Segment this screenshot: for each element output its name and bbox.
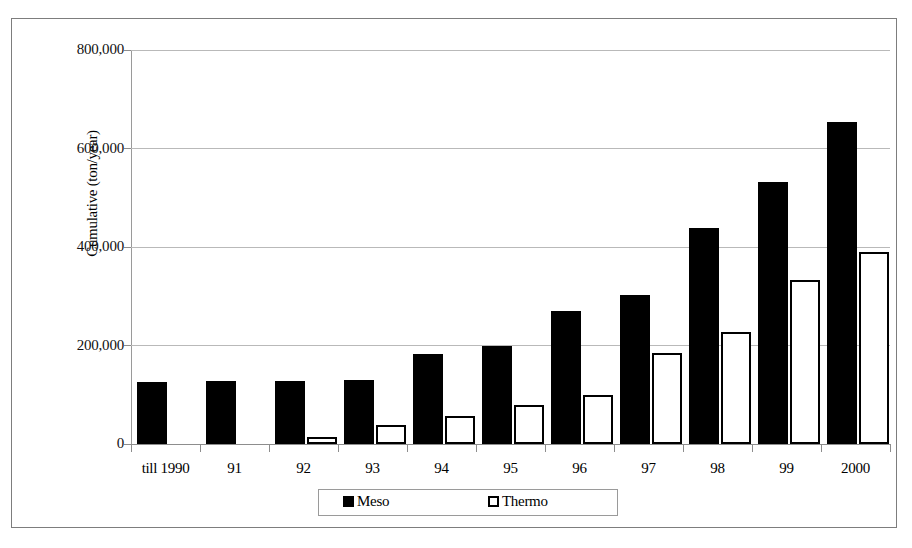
legend-item-thermo: Thermo bbox=[488, 493, 548, 510]
y-tick-label: 400,000 bbox=[77, 239, 124, 254]
bar-thermo-2000 bbox=[859, 252, 889, 444]
bar-thermo-99 bbox=[790, 280, 820, 444]
x-tick-mark bbox=[752, 444, 753, 452]
y-tick-label: 800,000 bbox=[77, 42, 124, 57]
gridline bbox=[131, 50, 890, 51]
bar-meso-97 bbox=[620, 295, 650, 444]
bar-thermo-93 bbox=[376, 425, 406, 444]
x-tick-label: till 1990 bbox=[131, 460, 200, 477]
bar-meso-92 bbox=[275, 381, 305, 444]
bar-meso-99 bbox=[758, 182, 788, 444]
bar-meso-96 bbox=[551, 311, 581, 444]
bar-meso-94 bbox=[413, 354, 443, 444]
x-tick-label: 93 bbox=[338, 460, 407, 477]
x-tick-mark bbox=[407, 444, 408, 452]
bar-meso-91 bbox=[206, 381, 236, 444]
x-tick-label: 2000 bbox=[821, 460, 890, 477]
y-tick-mark bbox=[124, 345, 131, 346]
x-tick-mark bbox=[338, 444, 339, 452]
x-tick-mark bbox=[131, 444, 132, 452]
bar-meso-98 bbox=[689, 228, 719, 444]
bar-chart: Cumulative (ton/year) 800,000 600,000 40… bbox=[0, 0, 912, 548]
y-tick-mark bbox=[124, 247, 131, 248]
x-tick-label: 95 bbox=[476, 460, 545, 477]
x-tick-mark bbox=[614, 444, 615, 452]
filled-square-icon bbox=[343, 496, 354, 507]
y-tick-mark bbox=[124, 444, 131, 445]
chart-screenshot: Cumulative (ton/year) 800,000 600,000 40… bbox=[0, 0, 912, 548]
x-tick-mark bbox=[821, 444, 822, 452]
bar-meso-2000 bbox=[827, 122, 857, 444]
x-axis-line bbox=[131, 444, 891, 445]
legend-item-meso: Meso bbox=[343, 493, 389, 510]
bar-thermo-95 bbox=[514, 405, 544, 444]
y-tick-mark bbox=[124, 50, 131, 51]
x-tick-mark bbox=[269, 444, 270, 452]
x-tick-mark bbox=[890, 444, 891, 452]
bar-thermo-92 bbox=[307, 437, 337, 444]
y-tick-label: 0 bbox=[117, 436, 124, 451]
hollow-square-icon bbox=[488, 496, 499, 507]
bar-thermo-97 bbox=[652, 353, 682, 444]
x-tick-mark bbox=[683, 444, 684, 452]
bar-thermo-94 bbox=[445, 416, 475, 444]
legend-label: Meso bbox=[357, 493, 389, 510]
chart-legend: Meso Thermo bbox=[318, 489, 618, 516]
x-tick-mark bbox=[476, 444, 477, 452]
bar-thermo-98 bbox=[721, 332, 751, 444]
x-tick-label: 94 bbox=[407, 460, 476, 477]
x-tick-label: 92 bbox=[269, 460, 338, 477]
x-tick-label: 96 bbox=[545, 460, 614, 477]
x-tick-label: 97 bbox=[614, 460, 683, 477]
bar-meso-till-1990 bbox=[137, 382, 167, 444]
x-tick-label: 91 bbox=[200, 460, 269, 477]
legend-label: Thermo bbox=[502, 493, 548, 510]
bar-thermo-96 bbox=[583, 395, 613, 444]
x-tick-mark bbox=[200, 444, 201, 452]
bar-meso-95 bbox=[482, 346, 512, 444]
gridline bbox=[131, 148, 890, 149]
x-tick-label: 98 bbox=[683, 460, 752, 477]
x-tick-mark bbox=[545, 444, 546, 452]
y-tick-mark bbox=[124, 148, 131, 149]
plot-area bbox=[131, 50, 890, 444]
y-tick-label: 200,000 bbox=[77, 338, 124, 353]
y-axis-tick-labels: 800,000 600,000 400,000 200,000 0 bbox=[10, 0, 124, 548]
bar-meso-93 bbox=[344, 380, 374, 444]
y-tick-label: 600,000 bbox=[77, 141, 124, 156]
x-tick-label: 99 bbox=[752, 460, 821, 477]
